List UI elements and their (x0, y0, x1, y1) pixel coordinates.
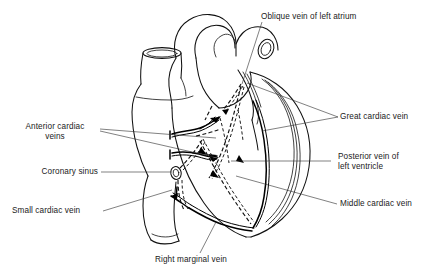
coronary-sinus-vein-path (178, 129, 220, 210)
leader-great-cardiac-vein-b (262, 117, 338, 131)
label-small-cardiac-vein: Small cardiac vein (12, 206, 80, 217)
label-anterior-cardiac-veins-line2: veins (12, 132, 98, 143)
label-right-marginal-vein: Right marginal vein (155, 255, 227, 266)
leader-small-cardiac-vein (103, 190, 172, 211)
pulmonary-trunk (169, 58, 219, 108)
right-atrium (132, 78, 193, 176)
superior-vena-cava (141, 48, 182, 84)
middle-cardiac-vein (198, 139, 254, 224)
inferior-vena-cava (143, 176, 179, 244)
great-cardiac-vein (253, 100, 269, 228)
label-great-cardiac-vein: Great cardiac vein (340, 112, 408, 123)
leader-right-marginal-vein (200, 222, 216, 253)
label-coronary-sinus: Coronary sinus (10, 167, 98, 178)
left-atrial-appendage (238, 70, 261, 150)
label-anterior-cardiac-veins-line1: Anterior cardiac (12, 122, 98, 133)
posterior-vein-of-left-ventricle (209, 86, 244, 179)
label-oblique-vein-of-left-atrium: Oblique vein of left atrium (261, 12, 357, 23)
label-posterior-vein-of-left-ventricle-line1: Posterior vein of (338, 152, 399, 163)
leader-anterior-cardiac-veins-b (100, 131, 214, 157)
cardiac-veins-diagram: Oblique vein of left atrium Great cardia… (0, 0, 443, 274)
leader-middle-cardiac-vein (236, 176, 337, 204)
leader-anterior-cardiac-veins-a (100, 129, 216, 138)
left-ventricle (250, 72, 310, 237)
label-middle-cardiac-vein: Middle cardiac vein (340, 199, 412, 210)
anterior-cardiac-veins (170, 116, 221, 162)
label-posterior-vein-of-left-ventricle-line2: left ventricle (338, 162, 383, 173)
